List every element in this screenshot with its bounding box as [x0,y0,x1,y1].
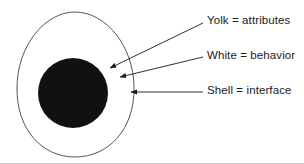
diagram-canvas: Yolk = attributes White = behavior Shell… [0,0,304,164]
egg-analogy-diagram: Yolk = attributes White = behavior Shell… [0,0,304,164]
label-shell: Shell = interface [207,84,292,96]
egg-yolk-circle [38,58,108,128]
label-white: White = behavior [207,49,295,61]
label-yolk: Yolk = attributes [207,14,291,26]
